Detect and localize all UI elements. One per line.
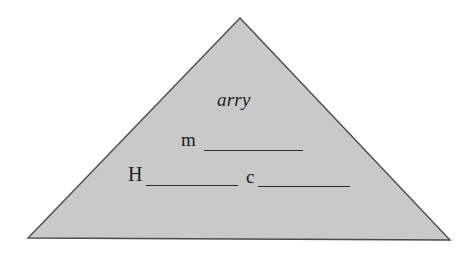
triangle-shape [28,18,450,240]
figure-canvas: arry m H c [0,0,476,254]
triangle-shape-layer [0,0,476,254]
